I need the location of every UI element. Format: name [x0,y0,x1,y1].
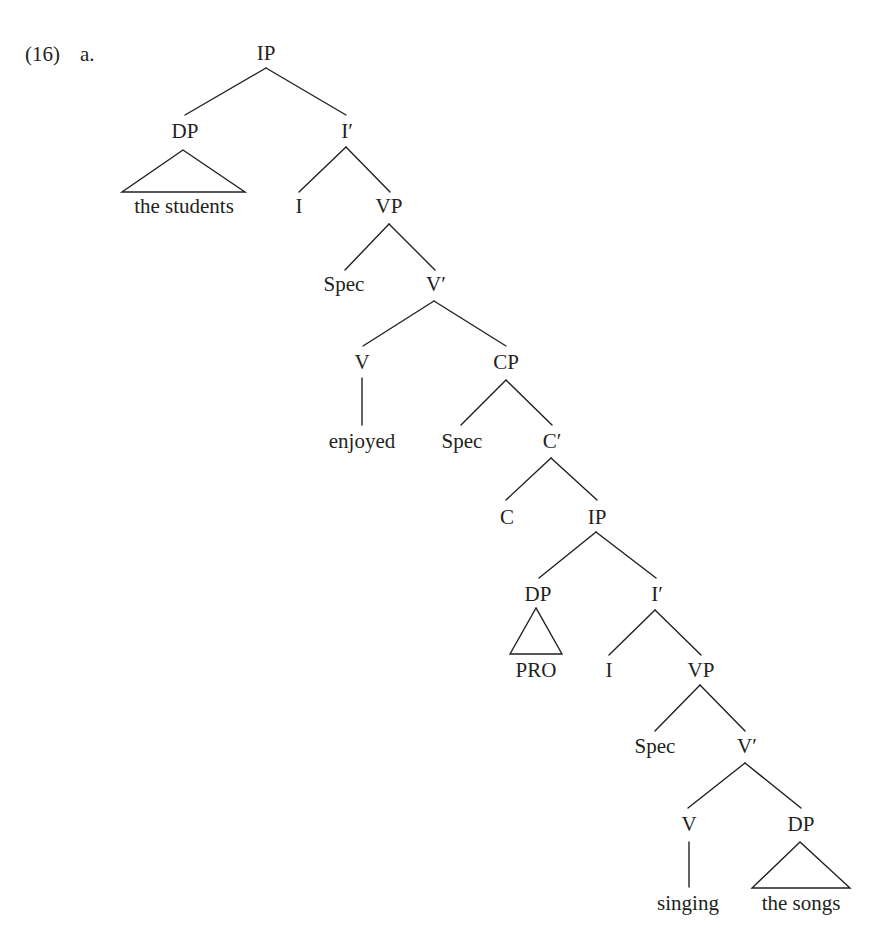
tree-edge [299,147,346,192]
tree-node-dp3: DP [788,812,815,836]
tree-node-vp1: VP [376,194,403,218]
tree-edge [688,763,745,808]
tree-node-spec3: Spec [635,734,676,758]
tree-node-i1: I [296,194,303,218]
tree-node-ibar1: I′ [341,119,353,143]
triangle-icon [122,150,245,192]
tree-node-spec2: Spec [442,429,483,453]
tree-node-v2-text: singing [657,891,719,915]
tree-edge [745,763,801,808]
tree-edge [345,224,389,270]
tree-edges [185,68,801,887]
tree-edge [596,532,656,578]
tree-edge [266,68,346,115]
tree-node-dp3-text: the songs [762,891,841,915]
tree-node-cbar1: C′ [543,429,562,453]
tree-node-vbar2: V′ [737,734,757,758]
tree-node-ibar2: I′ [651,582,663,606]
tree-edge [609,610,655,655]
triangle-icon [752,842,850,888]
tree-node-c1: C [500,505,514,529]
tree-edge [655,685,700,731]
tree-triangles [122,150,850,888]
tree-node-spec1: Spec [324,272,365,296]
example-number: (16) [25,42,60,66]
example-label: (16) a. [25,42,95,66]
tree-edge [185,68,266,115]
tree-node-ip1: IP [257,41,276,65]
tree-edge [700,685,745,731]
tree-node-dp1-text: the students [134,194,234,218]
tree-edge [539,532,596,578]
tree-edge [506,380,552,425]
tree-node-cp1: CP [493,350,519,374]
tree-node-v1-text: enjoyed [329,429,396,453]
tree-node-dp2-text: PRO [516,658,557,682]
tree-edge [551,458,597,500]
tree-edge [461,380,506,425]
tree-node-vp2: VP [688,658,715,682]
tree-node-dp2: DP [525,582,552,606]
syntax-tree-diagram: (16) a. IPDPI′the studentsIVPSpecV′VCPen… [0,0,880,939]
tree-node-i2: I [606,658,613,682]
example-sublabel: a. [80,42,95,66]
tree-edge [363,301,434,346]
triangle-icon [510,608,562,654]
tree-edge [655,610,701,655]
tree-edge [346,147,390,192]
tree-edge [506,458,551,500]
tree-node-dp1: DP [172,119,199,143]
tree-edge [434,301,506,346]
tree-nodes: IPDPI′the studentsIVPSpecV′VCPenjoyedSpe… [134,41,840,915]
tree-node-v1: V [354,350,369,374]
tree-node-ip2: IP [588,505,607,529]
tree-node-vbar1: V′ [426,272,446,296]
tree-edge [389,224,435,270]
tree-node-v2: V [681,812,696,836]
